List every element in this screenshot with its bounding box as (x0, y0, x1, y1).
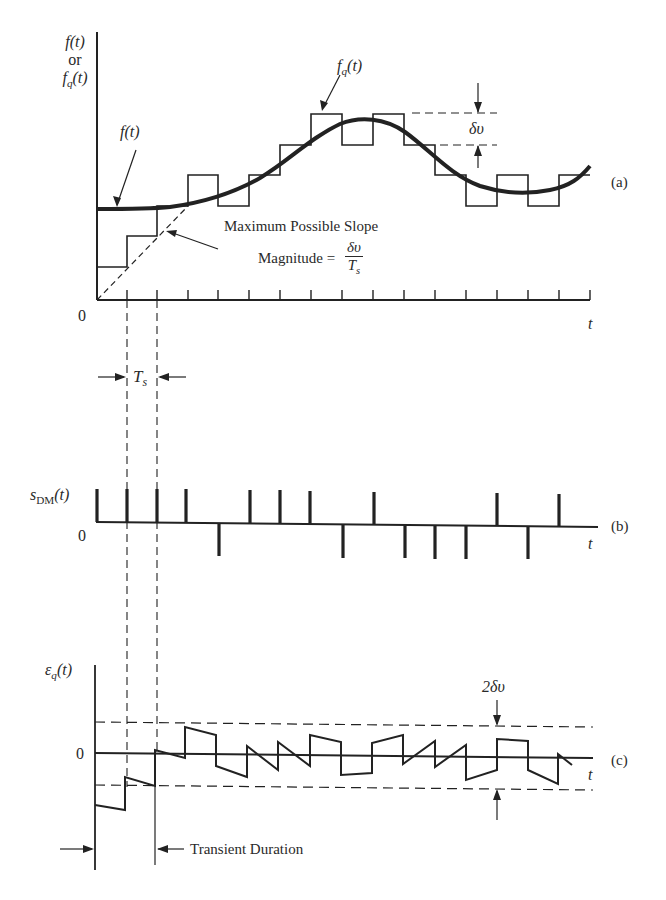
slope-annotation-line2: Magnitude = δυ Ts (258, 240, 363, 276)
panel-b-origin-label: 0 (78, 528, 86, 544)
sdm-sub: DM (36, 494, 54, 506)
band-lower-dashed (95, 785, 593, 790)
panel-a-ticks (127, 290, 590, 300)
error-waveform (95, 727, 572, 810)
band-upper-dashed (95, 722, 593, 727)
panel-c-origin-label: 0 (76, 746, 84, 762)
staircase-fq-label: fq(t) (337, 58, 362, 77)
arrowhead-icon (493, 789, 501, 800)
y-label-line2: or (55, 52, 95, 68)
arrowhead-icon (493, 715, 501, 726)
eq-rest: (t) (57, 661, 72, 678)
sdm-rest: (t) (54, 486, 69, 503)
panel-a-y-axis-label: f(t) or fq(t) (55, 34, 95, 89)
panel-b (96, 489, 598, 559)
slope-magnitude-prefix: Magnitude = (258, 250, 335, 266)
figure-canvas (0, 0, 666, 900)
denominator-main: T (348, 257, 356, 273)
delta-v-label: δυ (469, 121, 484, 137)
arrowhead-icon (166, 230, 177, 237)
arrowhead-icon (115, 373, 126, 381)
panel-a-x-axis-label: t (588, 316, 592, 332)
slope-numerator: δυ (345, 240, 363, 257)
fq-rest: (t) (347, 57, 362, 74)
slope-fraction: δυ Ts (345, 240, 363, 276)
y-label-line3-rest: (t) (72, 69, 87, 86)
panel-a-origin-label: 0 (78, 308, 86, 324)
slope-denominator: Ts (345, 257, 363, 276)
curve-f (97, 119, 590, 209)
y-label-line1: f(t) (55, 34, 95, 50)
transient-duration-label: Transient Duration (190, 842, 303, 857)
ts-sub: s (142, 375, 147, 389)
arrowhead-icon (474, 145, 482, 156)
panel-b-tag: (b) (611, 519, 629, 534)
max-slope-line (97, 206, 188, 300)
curve-f-pointer (117, 150, 136, 205)
panel-c-x-axis-label: t (588, 767, 592, 783)
panel-b-baseline (96, 522, 598, 527)
curve-f-label: f(t) (120, 124, 140, 140)
sampling-period-label: Ts (133, 368, 147, 389)
slope-annotation-line1: Maximum Possible Slope (224, 219, 378, 234)
y-label-line3: fq(t) (55, 70, 95, 89)
panel-c-tag: (c) (611, 753, 628, 768)
slope-pointer (170, 232, 218, 249)
panel-c-y-axis-label: εq(t) (45, 662, 72, 681)
panel-b-y-axis-label: sDM(t) (30, 487, 69, 506)
panel-a-tag: (a) (611, 175, 628, 190)
arrowhead-icon (83, 845, 94, 853)
panel-c (60, 665, 593, 870)
band-label: 2δυ (482, 679, 505, 695)
arrowhead-icon (158, 373, 169, 381)
arrowhead-icon (157, 845, 168, 853)
arrowhead-icon (474, 102, 482, 113)
delta-modulation-figure: f(t) or fq(t) f(t) fq(t) δυ (a) Maximum … (0, 0, 666, 900)
panel-b-x-axis-label: t (588, 536, 592, 552)
denominator-sub: s (356, 265, 360, 276)
